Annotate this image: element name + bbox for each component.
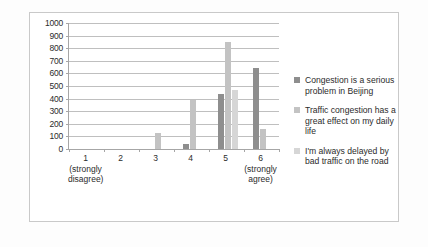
x-axis-tick-label: 2 (103, 153, 138, 164)
y-axis-tick-mark (66, 99, 69, 100)
y-axis-tick-label: 0 (29, 145, 63, 153)
plot-wrapper: 10009008007006005004003002001000 1(stron… (30, 13, 288, 198)
x-axis-tick-number: 5 (208, 153, 243, 164)
x-axis-tick-mark (69, 149, 70, 152)
x-axis-tick-mark (174, 149, 175, 152)
y-axis-tick-mark (66, 36, 69, 37)
chart-screenshot: 10009008007006005004003002001000 1(stron… (0, 0, 428, 247)
x-axis-tick-label: 1(stronglydisagree) (68, 153, 103, 185)
y-axis-tick-mark (66, 73, 69, 74)
x-axis-tick-sublabel: (strongly (68, 164, 103, 175)
bar-cluster (104, 23, 139, 149)
x-axis-tick-sublabel: disagree) (68, 174, 103, 185)
y-axis-tick-label: 900 (29, 32, 63, 40)
bar (232, 90, 239, 149)
y-axis-tick-mark (66, 23, 69, 24)
x-axis-tick-label: 5 (208, 153, 243, 164)
y-axis-tick-label: 500 (29, 82, 63, 90)
y-axis-tick-mark (66, 48, 69, 49)
x-axis-labels: 1(stronglydisagree)23456(stronglyagree) (68, 153, 278, 198)
legend-item[interactable]: I'm always delayed by bad traffic on the… (294, 146, 398, 167)
x-axis-tick-number: 2 (103, 153, 138, 164)
x-axis-tick-label: 3 (138, 153, 173, 164)
x-axis-tick-sublabel: (strongly (243, 164, 278, 175)
y-axis-tick-label: 100 (29, 132, 63, 140)
bar (253, 68, 260, 149)
y-axis-tick-mark (66, 136, 69, 137)
legend-label: I'm always delayed by bad traffic on the… (305, 146, 398, 167)
x-axis-tick-number: 4 (173, 153, 208, 164)
x-axis-tick-sublabel: agree) (243, 174, 278, 185)
legend-swatch-icon (294, 77, 300, 83)
bar (218, 94, 225, 149)
x-axis-tick-number: 3 (138, 153, 173, 164)
y-axis-tick-label: 300 (29, 107, 63, 115)
x-axis-tick-mark (244, 149, 245, 152)
bar (155, 133, 162, 149)
y-axis-tick-mark (66, 86, 69, 87)
legend-item[interactable]: Congestion is a serious problem in Beiji… (294, 75, 398, 96)
bar-cluster (69, 23, 104, 149)
y-axis-tick-label: 600 (29, 69, 63, 77)
bar-cluster (174, 23, 209, 149)
x-axis-tick-label: 6(stronglyagree) (243, 153, 278, 185)
bar (183, 144, 190, 149)
x-axis-tick-mark (139, 149, 140, 152)
y-axis-tick-label: 700 (29, 57, 63, 65)
x-axis-tick-label: 4 (173, 153, 208, 164)
legend-swatch-icon (294, 107, 300, 113)
chart-legend: Congestion is a serious problem in Beiji… (294, 75, 398, 176)
bar-group (69, 23, 279, 149)
bar-cluster (209, 23, 244, 149)
y-axis-tick-label: 400 (29, 95, 63, 103)
bar-cluster (244, 23, 279, 149)
x-axis-tick-mark (104, 149, 105, 152)
bar-cluster (139, 23, 174, 149)
legend-swatch-icon (294, 148, 300, 154)
x-axis-tick-mark (279, 149, 280, 152)
y-axis-tick-label: 1000 (29, 19, 63, 27)
y-axis-tick-label: 800 (29, 44, 63, 52)
bar (260, 129, 267, 149)
bar (225, 42, 232, 149)
y-axis-tick-mark (66, 111, 69, 112)
y-axis-tick-mark (66, 124, 69, 125)
bar (190, 100, 197, 149)
legend-label: Congestion is a serious problem in Beiji… (305, 75, 398, 96)
y-axis-labels: 10009008007006005004003002001000 (30, 23, 66, 149)
plot-area (68, 23, 279, 150)
legend-label: Traffic congestion has a great effect on… (305, 105, 398, 137)
y-axis-tick-label: 200 (29, 120, 63, 128)
x-axis-tick-number: 1 (68, 153, 103, 164)
y-axis-tick-mark (66, 61, 69, 62)
x-axis-tick-number: 6 (243, 153, 278, 164)
legend-item[interactable]: Traffic congestion has a great effect on… (294, 105, 398, 137)
chart-frame: 10009008007006005004003002001000 1(stron… (29, 12, 399, 222)
x-axis-tick-mark (209, 149, 210, 152)
